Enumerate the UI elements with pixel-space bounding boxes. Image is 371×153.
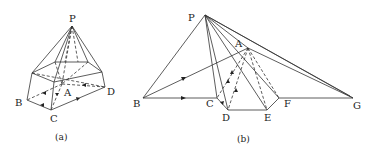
caption-b: (b)	[237, 134, 250, 144]
arrow-icon	[82, 83, 86, 87]
label-e: E	[264, 112, 271, 123]
arrow-icon	[42, 91, 46, 95]
label-d: D	[222, 112, 230, 123]
label-c: C	[206, 98, 214, 109]
caption-a: (a)	[55, 132, 67, 142]
arrow-icon	[226, 79, 230, 83]
label-d: D	[107, 86, 115, 97]
arrow-icon	[55, 93, 59, 96]
arrow-icon	[230, 70, 234, 74]
label-g: G	[353, 100, 361, 111]
label-a: A	[234, 38, 243, 49]
label-p: P	[188, 12, 195, 23]
label-b: B	[15, 97, 22, 108]
label-f: F	[284, 98, 291, 109]
figure-b: P A B C D E F G (b)	[133, 12, 361, 144]
diagram-canvas: P A B C D (a)	[0, 0, 371, 153]
label-b: B	[133, 98, 140, 109]
label-p: P	[69, 13, 76, 24]
figure-a: P A B C D (a)	[15, 13, 115, 142]
label-a: A	[63, 87, 72, 98]
arrow-icon	[181, 96, 186, 100]
label-c: C	[50, 113, 58, 124]
arrow-icon	[181, 77, 186, 81]
